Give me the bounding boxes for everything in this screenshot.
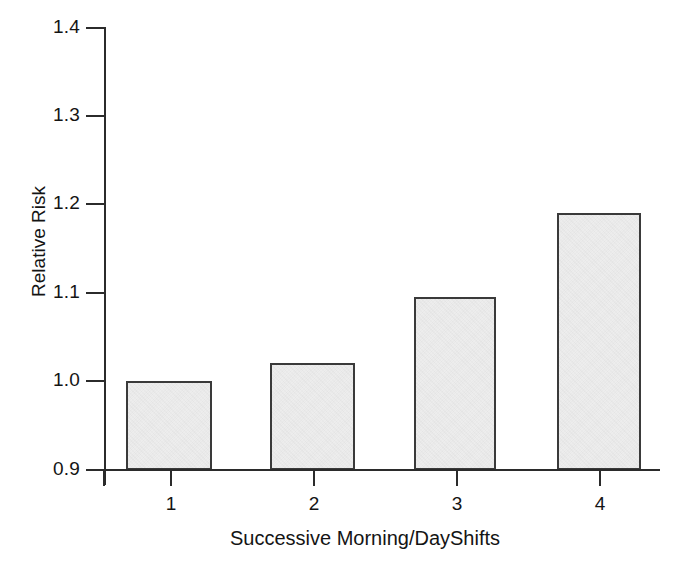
bar-1 bbox=[126, 381, 212, 470]
bar-chart: 1.4 1.3 1.2 1.1 1.0 0.9 1 2 3 4 Relative… bbox=[0, 0, 678, 577]
bar-2 bbox=[270, 363, 355, 470]
y-axis-tick-1.2 bbox=[86, 203, 104, 205]
x-axis-tick-label-4: 4 bbox=[570, 494, 630, 513]
bar-4 bbox=[557, 213, 641, 470]
x-axis-tick-label-3: 3 bbox=[427, 494, 487, 513]
x-axis-tick-label-1: 1 bbox=[141, 494, 201, 513]
y-axis-tick-label-1.0: 1.0 bbox=[8, 370, 80, 389]
x-axis-tick-3 bbox=[456, 470, 458, 486]
y-axis-tick-1.0 bbox=[86, 380, 104, 382]
x-axis-tick-4 bbox=[599, 470, 601, 486]
y-axis-tick-label-1.3: 1.3 bbox=[8, 105, 80, 124]
bar-3 bbox=[414, 297, 496, 470]
y-axis-title: Relative Risk bbox=[29, 162, 48, 322]
y-axis-tick-label-0.9: 0.9 bbox=[8, 459, 80, 478]
y-axis-tick-1.3 bbox=[86, 115, 104, 117]
x-axis-tick-origin bbox=[103, 470, 105, 486]
x-axis-tick-1 bbox=[170, 470, 172, 486]
y-axis-line bbox=[104, 27, 106, 485]
y-axis-tick-1.4 bbox=[86, 27, 104, 29]
y-axis-tick-label-1.4: 1.4 bbox=[8, 17, 80, 36]
x-axis-title: Successive Morning/DayShifts bbox=[0, 528, 678, 548]
x-axis-line bbox=[86, 469, 660, 471]
y-axis-tick-1.1 bbox=[86, 292, 104, 294]
x-axis-tick-2 bbox=[313, 470, 315, 486]
x-axis-tick-label-2: 2 bbox=[284, 494, 344, 513]
